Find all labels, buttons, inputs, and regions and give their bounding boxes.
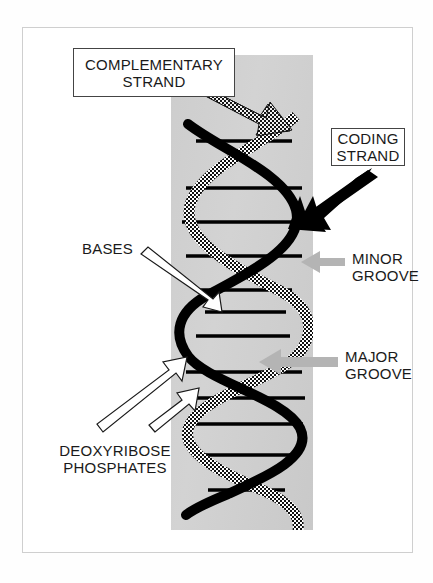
label-deoxyribose-phosphates-line1: DEOXYRIBOSE bbox=[35, 442, 195, 459]
dna-structure-figure: COMPLEMENTARY STRAND CODING STRAND MINOR… bbox=[0, 0, 433, 583]
label-major-groove-line2: GROOVE bbox=[345, 365, 412, 382]
label-minor-groove-line1: MINOR bbox=[352, 250, 419, 267]
label-coding-strand-line2: STRAND bbox=[337, 147, 400, 164]
label-coding-strand-line1: CODING bbox=[337, 130, 398, 147]
deoxyribose-phosphates-arrow-upper bbox=[97, 357, 187, 432]
label-deoxyribose-phosphates[interactable]: DEOXYRIBOSE PHOSPHATES bbox=[35, 442, 195, 476]
label-bases-line1: BASES bbox=[82, 240, 133, 257]
complementary-strand bbox=[187, 116, 308, 531]
label-minor-groove[interactable]: MINOR GROOVE bbox=[352, 250, 419, 284]
label-deoxyribose-phosphates-line2: PHOSPHATES bbox=[35, 459, 195, 476]
label-coding-strand[interactable]: CODING STRAND bbox=[331, 128, 405, 166]
label-minor-groove-line2: GROOVE bbox=[352, 267, 419, 284]
label-complementary-strand-line2: STRAND bbox=[123, 73, 186, 90]
label-complementary-strand[interactable]: COMPLEMENTARY STRAND bbox=[73, 48, 235, 97]
label-major-groove-line1: MAJOR bbox=[345, 348, 412, 365]
label-complementary-strand-line1: COMPLEMENTARY bbox=[85, 56, 223, 73]
label-major-groove[interactable]: MAJOR GROOVE bbox=[345, 348, 412, 382]
label-bases[interactable]: BASES bbox=[82, 240, 133, 257]
minor-groove-arrow bbox=[301, 251, 345, 273]
coding-strand-arrow bbox=[288, 168, 378, 232]
